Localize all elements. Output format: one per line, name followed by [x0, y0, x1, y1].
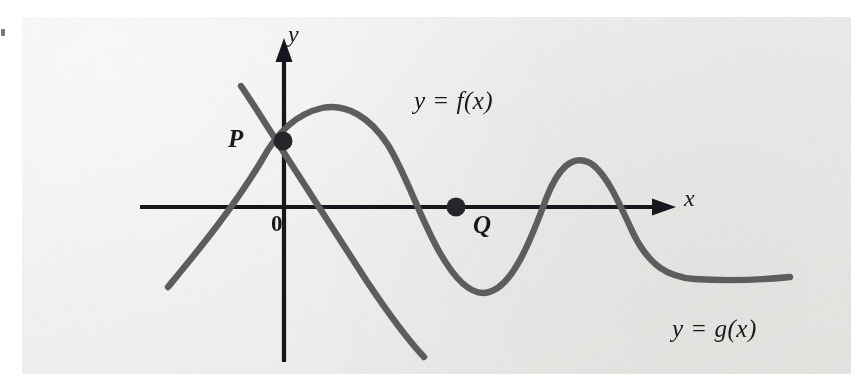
- point-p-label: P: [228, 126, 243, 151]
- origin-label: 0: [271, 212, 283, 235]
- curve-f-of-x: [168, 107, 790, 293]
- curve-f-label: y = f(x): [414, 88, 493, 113]
- marked-point-p: [274, 132, 293, 151]
- x-axis-label: x: [684, 186, 695, 210]
- y-axis: [276, 38, 293, 362]
- marked-point-q: [447, 198, 466, 217]
- x-axis-arrowhead: [652, 199, 676, 216]
- curve-g-of-x: [241, 86, 424, 357]
- y-axis-label: y: [288, 22, 299, 46]
- x-axis: [140, 199, 676, 216]
- point-q-label: Q: [473, 212, 491, 237]
- figure-container: y x 0 P Q y = f(x) y = g(x): [0, 0, 865, 386]
- curve-g-label: y = g(x): [672, 316, 757, 341]
